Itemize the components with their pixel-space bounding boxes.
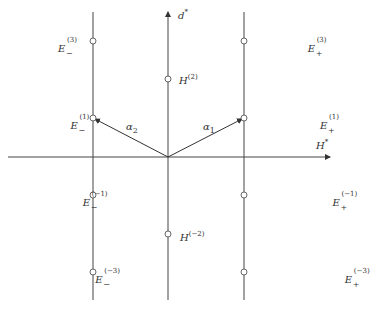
node-e-minus-1 [90, 115, 96, 121]
label-e-plus-m1: E(−1)+ [332, 198, 339, 208]
label-e-minus-1: E(1)− [70, 121, 77, 131]
label-h-m2: H(−2) [180, 232, 205, 243]
label-h-2: H(2) [179, 75, 198, 86]
node-h-2 [165, 76, 171, 82]
label-e-plus-1: E(1)+ [320, 121, 327, 131]
node-h-m2 [165, 231, 171, 237]
label-e-minus-3: E(3)− [58, 44, 65, 54]
v-axis-label: d* [178, 10, 188, 21]
label-e-minus-m1: E(−1)− [83, 198, 90, 208]
node-e-plus-m3 [241, 269, 247, 275]
label-e-plus-3: E(3)+ [308, 44, 315, 54]
alpha1-label: α1 [203, 122, 215, 135]
alpha2-label: α2 [126, 122, 138, 135]
label-e-plus-m3: E(−3)+ [345, 275, 352, 285]
node-e-plus-3 [241, 38, 247, 44]
node-e-plus-m1 [241, 192, 247, 198]
h-axis-label: H* [316, 140, 328, 151]
label-e-minus-m3: E(−3)− [95, 275, 102, 285]
node-e-minus-3 [90, 38, 96, 44]
node-e-plus-1 [241, 115, 247, 121]
